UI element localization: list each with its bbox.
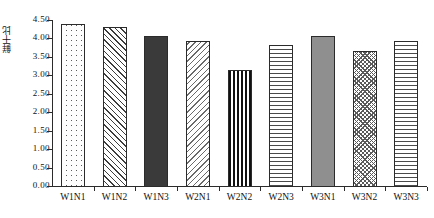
x-axis-tick-label-w1n1: W1N1 — [52, 192, 94, 203]
y-axis-tick-label: 2.00 — [18, 107, 50, 116]
bar-w2n3 — [269, 45, 293, 187]
bar-w3n3 — [394, 41, 418, 187]
x-axis-tick-label-w3n3: W3N3 — [385, 192, 427, 203]
x-axis-tick-label-w2n3: W2N3 — [260, 192, 302, 203]
bar-w2n2 — [228, 70, 252, 187]
x-axis-tick-mark — [427, 187, 428, 191]
plot-area — [52, 20, 427, 187]
x-axis-tick-label-w2n2: W2N2 — [219, 192, 261, 203]
y-axis-tick-label: 1.00 — [18, 144, 50, 153]
x-axis-tick-label-w1n3: W1N3 — [135, 192, 177, 203]
bar-w3n2 — [353, 51, 377, 187]
y-axis-tick-label: 1.50 — [18, 126, 50, 135]
bar-chart: 鲜干比 0.000.501.001.502.002.503.003.504.00… — [0, 0, 434, 218]
x-axis-tick-mark — [94, 187, 95, 191]
bar-w2n1 — [186, 41, 210, 187]
bar-w1n1 — [61, 24, 85, 187]
x-axis-tick-mark — [260, 187, 261, 191]
y-axis-tick-label: 3.00 — [18, 70, 50, 79]
x-axis-tick-mark — [135, 187, 136, 191]
x-axis-tick-mark — [219, 187, 220, 191]
y-axis-tick-label: 4.00 — [18, 33, 50, 42]
y-axis-tick-labels: 0.000.501.001.502.002.503.003.504.004.50 — [0, 0, 50, 218]
x-axis-tick-label-w2n1: W2N1 — [177, 192, 219, 203]
bar-w1n2 — [103, 27, 127, 187]
y-axis-tick-label: 2.50 — [18, 89, 50, 98]
x-axis-tick-label-w3n2: W3N2 — [344, 192, 386, 203]
x-axis-tick-label-w3n1: W3N1 — [302, 192, 344, 203]
y-axis-tick-label: 3.50 — [18, 52, 50, 61]
x-axis-tick-label-w1n2: W1N2 — [94, 192, 136, 203]
y-axis-tick-label: 0.50 — [18, 163, 50, 172]
x-axis-tick-mark — [385, 187, 386, 191]
y-axis-tick-label: 0.00 — [18, 181, 50, 190]
bar-w3n1 — [311, 36, 335, 187]
x-axis-tick-mark — [177, 187, 178, 191]
x-axis-tick-mark — [302, 187, 303, 191]
y-axis-tick-label: 4.50 — [18, 15, 50, 24]
x-axis-tick-mark — [344, 187, 345, 191]
bar-w1n3 — [144, 36, 168, 187]
